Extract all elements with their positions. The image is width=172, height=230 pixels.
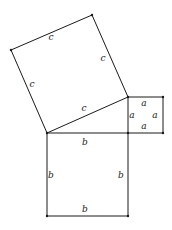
- vertex-dot: [127, 96, 129, 98]
- label-a-right: a: [152, 110, 157, 120]
- label-b-right: b: [118, 170, 124, 180]
- vertex-dot: [127, 215, 129, 217]
- label-b-left: b: [48, 170, 54, 180]
- vertex-dot: [10, 49, 12, 51]
- label-a-bottom: a: [141, 121, 146, 131]
- label-a-top: a: [141, 98, 146, 108]
- pythagoras-diagram: c c c c a a a a b b b b: [0, 0, 172, 230]
- square-a: a a a a: [128, 97, 163, 133]
- label-a-left: a: [129, 110, 134, 120]
- label-c-hypotenuse: c: [81, 103, 86, 113]
- square-c-outline: [11, 15, 128, 133]
- vertex-dot: [46, 132, 48, 134]
- label-c-top: c: [48, 32, 53, 42]
- square-c: c c c c: [11, 15, 128, 133]
- label-b-bottom: b: [82, 204, 88, 214]
- vertex-dot: [91, 14, 93, 16]
- vertex-dot: [162, 96, 164, 98]
- vertex-dot: [162, 132, 164, 134]
- vertex-dot: [46, 215, 48, 217]
- square-b: b b b b: [47, 133, 128, 216]
- label-c-left: c: [29, 79, 34, 89]
- label-b-top: b: [82, 137, 88, 147]
- label-c-right: c: [100, 53, 105, 63]
- vertex-dot: [127, 132, 129, 134]
